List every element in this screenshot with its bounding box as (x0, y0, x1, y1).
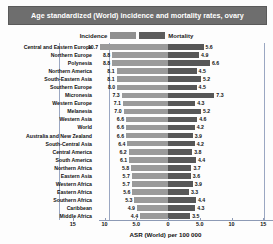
incidence-bar (127, 141, 168, 147)
region-label: Caribbean (0, 204, 92, 212)
mortality-bar (168, 101, 195, 107)
incidence-bar (129, 157, 168, 163)
mortality-bar (168, 60, 210, 66)
region-label: Northern Africa (0, 164, 92, 172)
x-tick-label: 0 (159, 221, 177, 227)
incidence-value: 8.0 (93, 83, 115, 91)
bar-rows: Central and Eastern Europe10.75.6Norther… (0, 43, 273, 220)
chart-row: Melanesia7.05.2 (0, 107, 273, 115)
incidence-value: 7.3 (98, 91, 120, 99)
incidence-bar (100, 44, 168, 50)
legend-swatch-mortality (139, 32, 165, 39)
incidence-bar (140, 213, 168, 219)
chart-row: Western Africa5.73.9 (0, 180, 273, 188)
mortality-bar (168, 68, 197, 74)
x-tick-label: 15 (254, 221, 272, 227)
x-tick-mark (232, 218, 233, 221)
incidence-bar (112, 60, 168, 66)
legend-label-mortality: Mortality (168, 33, 193, 39)
mortality-value: 4.5 (199, 83, 221, 91)
incidence-value: 8.8 (88, 59, 110, 67)
incidence-value: 6.6 (102, 115, 124, 123)
incidence-bar (126, 117, 168, 123)
region-label: Central America (0, 148, 92, 156)
mortality-bar (168, 197, 196, 203)
mortality-value: 3.6 (193, 172, 215, 180)
mortality-value: 3.5 (192, 212, 214, 220)
chart-row: Northern Europe8.84.9 (0, 51, 273, 59)
mortality-bar (168, 117, 197, 123)
chart-row: South-Central Asia6.44.2 (0, 140, 273, 148)
incidence-value: 4.4 (116, 212, 138, 220)
region-label: South-Eastern Asia (0, 75, 92, 83)
chart-legend: Incidence Mortality (0, 30, 273, 41)
chart-row: Polynesia8.86.6 (0, 59, 273, 67)
region-label: World (0, 123, 92, 131)
mortality-value: 3.9 (195, 180, 217, 188)
incidence-bar (117, 85, 168, 91)
incidence-value: 10.7 (76, 43, 98, 51)
mortality-bar (168, 44, 204, 50)
mortality-bar (168, 141, 195, 147)
incidence-value: 6.6 (102, 132, 124, 140)
x-axis-label-wrap: ASR (World) per 100 000 (0, 231, 273, 238)
x-tick-label: 5.0 (191, 221, 209, 227)
region-label: Southern Europe (0, 83, 92, 91)
legend-swatch-incidence (110, 32, 136, 39)
region-label: Western Europe (0, 99, 92, 107)
incidence-value: 8.1 (93, 67, 115, 75)
mortality-bar (168, 133, 193, 139)
mortality-value: 7.3 (216, 91, 238, 99)
mortality-bar (168, 189, 189, 195)
incidence-bar (132, 189, 168, 195)
x-tick-mark (73, 218, 74, 221)
chart-row: Western Europe7.14.3 (0, 99, 273, 107)
incidence-bar (132, 173, 168, 179)
chart-row: Western Asia6.64.6 (0, 115, 273, 123)
mortality-bar (168, 205, 195, 211)
mortality-bar (168, 109, 201, 115)
mortality-value: 4.2 (197, 123, 219, 131)
region-label: Northern Europe (0, 51, 92, 59)
incidence-bar (126, 133, 168, 139)
mortality-value: 3.8 (194, 148, 216, 156)
incidence-bar (132, 181, 168, 187)
chart-row: Caribbean4.94.3 (0, 204, 273, 212)
chart-row: Northern America8.14.5 (0, 67, 273, 75)
region-label: Southern Africa (0, 196, 92, 204)
region-label: Northern America (0, 67, 92, 75)
region-label: Polynesia (0, 59, 92, 67)
incidence-value: 5.8 (107, 164, 129, 172)
chart-row: Southern Africa5.34.4 (0, 196, 273, 204)
mortality-value: 4.3 (197, 99, 219, 107)
region-label: Melanesia (0, 107, 92, 115)
x-tick-mark (105, 218, 106, 221)
legend-label-incidence: Incidence (80, 33, 108, 39)
incidence-value: 8.1 (93, 75, 115, 83)
mortality-value: 3.7 (193, 164, 215, 172)
mortality-bar (168, 165, 191, 171)
incidence-value: 5.3 (110, 196, 132, 204)
region-label: Western Asia (0, 115, 92, 123)
mortality-value: 4.3 (197, 204, 219, 212)
x-tick-mark (168, 218, 169, 221)
incidence-bar (117, 68, 168, 74)
mortality-bar (168, 125, 195, 131)
chart-row: Central and Eastern Europe10.75.6 (0, 43, 273, 51)
x-tick-mark (263, 218, 264, 221)
chart-row: Northern Africa5.83.7 (0, 164, 273, 172)
incidence-bar (134, 197, 168, 203)
incidence-bar (112, 52, 168, 58)
incidence-bar (126, 125, 168, 131)
mortality-bar (168, 157, 196, 163)
mortality-value: 4.9 (201, 51, 223, 59)
incidence-bar (117, 76, 168, 82)
chart-row: World6.64.2 (0, 123, 273, 131)
chart-row: Southern Europe8.04.5 (0, 83, 273, 91)
incidence-bar (124, 109, 168, 115)
mortality-value: 5.2 (203, 107, 225, 115)
region-label: South-Central Asia (0, 140, 92, 148)
mortality-value: 4.4 (198, 196, 220, 204)
x-tick-label: 10 (223, 221, 241, 227)
incidence-bar (122, 93, 168, 99)
